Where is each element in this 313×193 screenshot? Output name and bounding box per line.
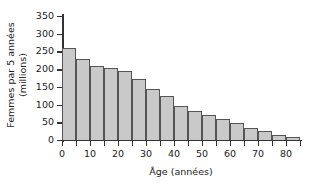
bar [188,111,202,140]
bar [76,59,90,140]
x-axis-tick-label: 20 [105,149,131,159]
y-axis-tick-label: 150 [28,82,54,92]
bar [244,128,258,140]
x-axis-tick [132,141,133,146]
x-axis-tick-label: 80 [273,149,299,159]
x-axis-tick-label: 0 [49,149,75,159]
x-axis-tick-label: 40 [161,149,187,159]
x-axis-tick [104,141,105,146]
x-axis-tick-label: 50 [189,149,215,159]
bar [174,106,188,140]
x-axis-tick [188,141,189,146]
bar [258,131,272,140]
bar [272,135,286,140]
bar [160,96,174,140]
y-axis-tick-label: 300 [28,29,54,39]
y-axis-title-line1: Femmes par 5 années [5,22,17,127]
bar [118,71,132,140]
x-axis-tick [90,141,91,146]
y-axis-tick-label: 100 [28,100,54,110]
x-axis-tick-label: 70 [245,149,271,159]
bar [146,89,160,140]
x-axis-tick [300,141,301,146]
y-axis-title: Femmes par 5 années (millions) [0,0,34,150]
bar [132,79,146,140]
y-axis-tick-label: 200 [28,64,54,74]
x-axis-tick [118,141,119,146]
x-axis-tick [258,141,259,146]
bar [286,137,300,140]
bar [216,119,230,140]
x-axis-tick-label: 10 [77,149,103,159]
chart-figure: Femmes par 5 années (millions) 050100150… [0,0,313,193]
x-axis-tick [216,141,217,146]
x-axis-tick [244,141,245,146]
x-axis-tick [230,141,231,146]
x-axis-title: Âge (années) [62,166,300,177]
x-axis-tick [62,141,63,146]
x-axis-tick-label: 60 [217,149,243,159]
x-axis-tick [160,141,161,146]
x-axis-tick [146,141,147,146]
y-axis-tick-label: 350 [28,11,54,21]
bar [90,66,104,140]
bar [230,123,244,140]
bar [202,115,216,140]
y-axis-tick-label: 0 [28,135,54,145]
y-axis-tick-label: 50 [28,117,54,127]
x-axis-tick [272,141,273,146]
bar [104,68,118,140]
y-axis-tick-label: 250 [28,46,54,56]
plot-area [62,16,300,140]
bar [62,48,76,140]
x-axis-tick [76,141,77,146]
x-axis-tick-label: 30 [133,149,159,159]
x-axis-tick [286,141,287,146]
x-axis-tick [202,141,203,146]
x-axis-tick [174,141,175,146]
